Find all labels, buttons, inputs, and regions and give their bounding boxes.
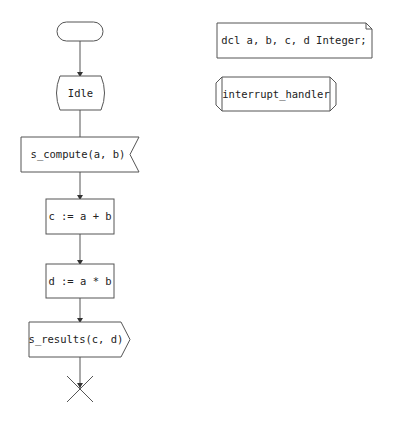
text-declaration[interactable]: dcl a, b, c, d Integer;: [217, 23, 372, 58]
input-signal-label: s_compute(a, b): [31, 148, 126, 161]
task-c-assign[interactable]: c := a + b: [46, 199, 114, 234]
task-label: d := a * b: [48, 275, 111, 287]
state-label: Idle: [68, 87, 93, 99]
output-signal-label: s_results(c, d): [29, 333, 124, 346]
start-node[interactable]: [57, 22, 103, 41]
task-label: c := a + b: [48, 210, 111, 222]
procedure-label: interrupt_handler: [222, 88, 329, 101]
start-symbol: [57, 22, 103, 41]
sdl-diagram: Idle s_compute(a, b) c := a + b d := a *…: [0, 0, 394, 434]
output-signal-s-results[interactable]: s_results(c, d): [29, 322, 130, 357]
state-idle[interactable]: Idle: [57, 76, 105, 110]
procedure-interrupt-handler[interactable]: interrupt_handler: [216, 77, 336, 111]
declaration-label: dcl a, b, c, d Integer;: [221, 34, 366, 46]
task-d-assign[interactable]: d := a * b: [46, 264, 114, 298]
input-signal-s-compute[interactable]: s_compute(a, b): [21, 137, 139, 172]
